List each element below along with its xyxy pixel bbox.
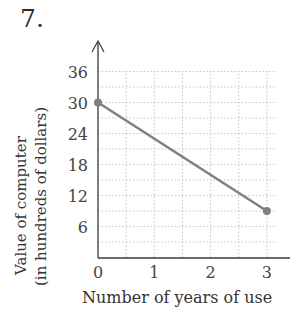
- grid: [98, 72, 275, 258]
- y-tick-label: 24: [68, 125, 88, 144]
- y-axis-label-line1: Value of computer: [12, 136, 30, 275]
- y-tick-label: 18: [68, 156, 88, 175]
- x-tick-label: 2: [206, 263, 216, 282]
- y-tick-label: 36: [68, 63, 88, 82]
- data-point-marker: [94, 99, 102, 107]
- axes: [92, 41, 290, 258]
- x-tick-label: 3: [262, 263, 272, 282]
- data-line: [98, 103, 267, 212]
- y-axis-label-line2: (in hundreds of dollars): [32, 107, 50, 286]
- y-tick-labels: 61218243036: [68, 63, 88, 237]
- data-point-marker: [263, 207, 271, 215]
- x-tick-label: 1: [149, 263, 159, 282]
- y-tick-label: 6: [78, 218, 88, 237]
- y-tick-label: 30: [68, 94, 88, 113]
- x-tick-label: 0: [93, 263, 103, 282]
- y-tick-label: 12: [68, 187, 88, 206]
- x-tick-labels: 0123: [93, 263, 272, 282]
- x-axis-label: Number of years of use: [82, 288, 272, 307]
